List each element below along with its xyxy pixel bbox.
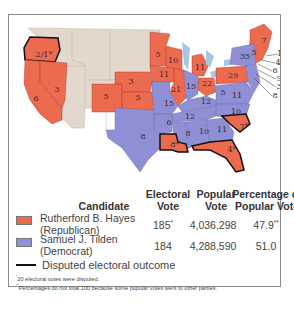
electoral-count-label: 5 [135,93,140,102]
electoral-count-label: 3 [128,77,133,86]
election-map-1876: 2/1*635355101121111515222935511121012681… [10,20,280,182]
electoral-count-label: 5 [220,88,225,97]
state-texas [106,108,160,172]
header-candidate: Candidate [64,200,144,212]
electoral-count-label: 8 [140,132,145,141]
electoral-count-label: 11 [232,91,242,100]
electoral-count-label: 6 [166,118,171,127]
electoral-count-label: 4* [227,145,236,154]
electoral-count-label: 7* [239,122,248,131]
electoral-count-label: 22 [202,79,212,88]
electoral-count-label: 29 [228,71,238,80]
electoral-count-label: 5 [103,92,108,101]
electoral-count-label: 11 [195,63,205,72]
electoral-count-label: 10 [168,56,178,65]
electoral-count-label: 12 [201,97,211,106]
electoral-count-label: 3 [276,82,280,91]
electoral-count-label: 5 [251,48,256,57]
hayes-percentage: 47.9** [238,219,294,231]
hayes-popular: 4,036,298 [180,219,246,231]
tilden-popular: 4,288,590 [180,240,246,252]
electoral-count-label: 8 [185,129,190,138]
democrat-swatch [16,238,32,247]
electoral-count-label: 13 [277,49,280,58]
electoral-count-label: 2/1* [36,50,53,59]
electoral-count-label: 8 [272,91,277,100]
electoral-count-label: 11 [159,70,169,79]
electoral-count-label: 15 [164,99,174,108]
disputed-legend: Disputed electoral outcome [16,259,175,271]
electoral-count-label: 35 [240,52,250,61]
header-percentage: Percentage ofPopular Vote [222,188,294,212]
electoral-count-label: 15 [186,82,196,91]
disputed-line-icon [16,264,36,266]
electoral-count-label: 11 [217,125,227,134]
electoral-count-label: 12 [185,112,195,121]
electoral-count-label: 3 [54,85,59,94]
hayes-electoral: 185* [143,219,183,231]
electoral-count-label: 8* [170,140,179,149]
footnote-2: **Percentages do not total 100 because s… [16,285,217,291]
candidate-tilden: Samuel J. Tilden(Democrat) [40,234,118,257]
electoral-count-label: 10 [231,107,241,116]
footnote-1: *20 electoral votes were disputed. [16,276,99,282]
tilden-percentage: 51.0 [238,240,294,252]
electoral-count-label: 6 [33,94,38,103]
electoral-count-label: 5 [155,50,160,59]
tilden-electoral: 184 [143,240,183,252]
electoral-count-label: 21 [171,85,181,94]
electoral-count-label: 10 [199,127,209,136]
republican-swatch [16,216,32,225]
electoral-count-label: 7 [261,36,266,45]
